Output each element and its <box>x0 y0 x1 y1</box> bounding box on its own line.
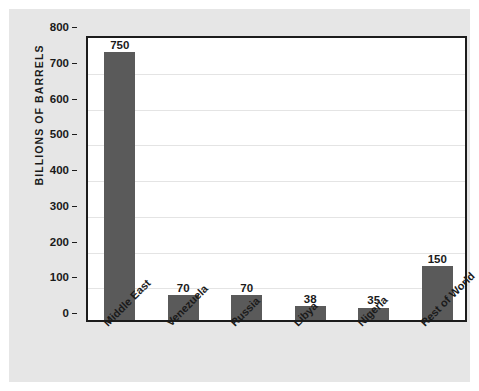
y-axis-tick-mark <box>72 242 77 243</box>
y-axis-tick-label: 500 <box>9 128 69 140</box>
y-axis-tick-mark <box>72 27 77 28</box>
bar-value-label: 750 <box>90 39 150 51</box>
y-axis-tick-label: 0 <box>9 307 69 319</box>
gridline <box>88 74 465 75</box>
y-axis-tick-mark <box>72 134 77 135</box>
gridline <box>88 110 465 111</box>
y-axis-tick-mark <box>72 206 77 207</box>
y-axis-tick-mark <box>72 277 77 278</box>
y-axis-tick-label: 400 <box>9 164 69 176</box>
y-axis-tick-label: 100 <box>9 271 69 283</box>
y-axis-tick-mark <box>72 170 77 171</box>
chart-figure: BILLIONS OF BARRELS 01002003004005006007… <box>0 0 479 391</box>
y-axis-tick-label: 300 <box>9 200 69 212</box>
y-axis-tick-mark <box>72 99 77 100</box>
y-axis-tick-label: 200 <box>9 236 69 248</box>
y-axis-tick-label: 700 <box>9 57 69 69</box>
chart-canvas: BILLIONS OF BARRELS 01002003004005006007… <box>9 9 470 382</box>
gridline <box>88 217 465 218</box>
bar-value-label: 70 <box>217 282 277 294</box>
y-axis-tick-label: 600 <box>9 93 69 105</box>
y-axis-tick-label: 800 <box>9 21 69 33</box>
y-axis-tick-mark <box>72 63 77 64</box>
gridline <box>88 145 465 146</box>
bar <box>104 52 135 320</box>
gridline <box>88 181 465 182</box>
bar-value-label: 150 <box>407 253 467 265</box>
y-axis-tick-mark <box>72 313 77 314</box>
